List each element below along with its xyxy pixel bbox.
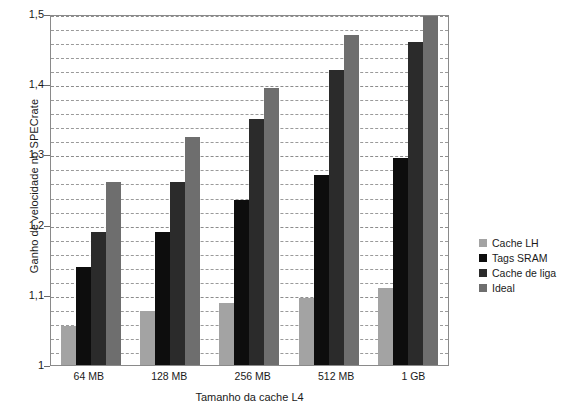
- legend-label: Ideal: [492, 282, 515, 294]
- y-tick-label: 1,1: [4, 289, 44, 301]
- bar: [234, 200, 249, 365]
- y-tick-label: 1: [4, 359, 44, 371]
- bar-group: [61, 16, 121, 365]
- bar: [264, 88, 279, 365]
- bar: [344, 35, 359, 365]
- bar: [76, 267, 91, 365]
- bar: [61, 326, 76, 365]
- y-tick-label: 1,3: [4, 148, 44, 160]
- bar: [249, 119, 264, 365]
- legend-swatch-icon: [479, 269, 487, 277]
- y-tick-label: 1,2: [4, 219, 44, 231]
- bar-group: [378, 16, 438, 365]
- bar: [140, 311, 155, 365]
- bar: [91, 232, 106, 365]
- bar: [185, 137, 200, 365]
- x-tick-label: 512 MB: [318, 370, 354, 382]
- x-tick-label: 256 MB: [235, 370, 271, 382]
- legend-swatch-icon: [479, 254, 487, 262]
- x-tick-label: 128 MB: [151, 370, 187, 382]
- legend-swatch-icon: [479, 284, 487, 292]
- bar: [408, 42, 423, 365]
- legend-label: Cache de liga: [492, 267, 556, 279]
- legend-label: Cache LH: [492, 237, 539, 249]
- legend-item: Cache de liga: [479, 267, 556, 279]
- bar-group: [299, 16, 359, 365]
- bar: [393, 158, 408, 365]
- legend-label: Tags SRAM: [492, 252, 547, 264]
- y-tick-mark: [44, 366, 50, 367]
- y-tick-label: 1,4: [4, 78, 44, 90]
- legend-item: Cache LH: [479, 237, 556, 249]
- y-axis-title: Ganho de velocidade no SPECrate: [28, 66, 40, 306]
- legend-swatch-icon: [479, 239, 487, 247]
- bar: [106, 182, 121, 365]
- bar: [329, 70, 344, 365]
- x-axis-title: Tamanho da cache L4: [50, 391, 449, 403]
- x-tick-label: 64 MB: [74, 370, 104, 382]
- bar: [378, 288, 393, 365]
- bar-chart: Ganho de velocidade no SPECrate 11,11,21…: [0, 0, 568, 411]
- bar: [219, 303, 234, 365]
- bar: [299, 298, 314, 365]
- plot-area: [50, 15, 449, 366]
- legend-item: Ideal: [479, 282, 556, 294]
- y-tick-label: 1,5: [4, 8, 44, 20]
- bar: [170, 182, 185, 365]
- x-axis-ticks: 64 MB128 MB256 MB512 MB1 GB: [50, 370, 449, 382]
- legend: Cache LHTags SRAMCache de ligaIdeal: [479, 237, 556, 294]
- bar-group: [219, 16, 279, 365]
- bar-group: [140, 16, 200, 365]
- x-tick-label: 1 GB: [401, 370, 425, 382]
- bars-layer: [51, 16, 448, 365]
- bar: [314, 175, 329, 365]
- legend-item: Tags SRAM: [479, 252, 556, 264]
- bar: [423, 15, 438, 365]
- bar: [155, 232, 170, 365]
